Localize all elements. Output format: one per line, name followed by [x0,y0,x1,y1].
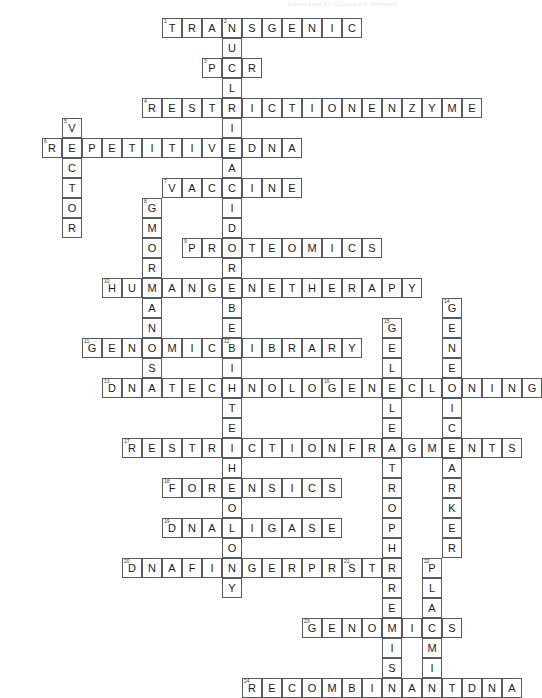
crossword-cell[interactable]: E [142,438,162,458]
crossword-cell[interactable]: 21S [342,558,362,578]
crossword-cell[interactable]: N [382,98,402,118]
crossword-cell[interactable]: N [462,438,482,458]
crossword-cell[interactable]: L [422,378,442,398]
crossword-cell[interactable]: A [382,438,402,458]
crossword-cell[interactable]: 14G [442,298,462,318]
crossword-cell[interactable]: 17R [122,438,142,458]
crossword-cell[interactable]: H [222,378,242,398]
crossword-cell[interactable]: R [142,258,162,278]
crossword-cell[interactable]: P [302,558,322,578]
crossword-cell[interactable]: P [382,518,402,538]
crossword-cell[interactable]: 23G [302,618,322,638]
crossword-cell[interactable]: I [382,638,402,658]
crossword-cell[interactable]: E [222,318,242,338]
crossword-cell[interactable]: D [222,218,242,238]
crossword-cell[interactable]: 4R [142,98,162,118]
crossword-cell[interactable]: E [382,418,402,438]
crossword-cell[interactable]: E [382,378,402,398]
crossword-cell[interactable]: 16G [322,378,342,398]
crossword-cell[interactable]: I [282,438,302,458]
crossword-cell[interactable]: 13D [102,378,122,398]
crossword-cell[interactable]: R [202,438,222,458]
crossword-cell[interactable]: E [442,318,462,338]
crossword-cell[interactable]: E [262,278,282,298]
crossword-cell[interactable]: L [222,78,242,98]
crossword-cell[interactable]: N [382,678,402,698]
crossword-cell[interactable]: V [202,138,222,158]
crossword-cell[interactable]: O [142,338,162,358]
crossword-cell[interactable]: T [282,278,302,298]
crossword-cell[interactable]: T [62,178,82,198]
crossword-cell[interactable]: E [462,98,482,118]
crossword-cell[interactable]: C [202,178,222,198]
crossword-cell[interactable]: R [182,18,202,38]
crossword-cell[interactable]: L [382,358,402,378]
crossword-cell[interactable]: R [382,578,402,598]
crossword-cell[interactable]: E [262,238,282,258]
crossword-cell[interactable]: N [142,558,162,578]
crossword-cell[interactable]: S [382,658,402,678]
crossword-cell[interactable]: C [422,618,442,638]
crossword-cell[interactable]: N [482,678,502,698]
crossword-cell[interactable]: I [222,438,242,458]
crossword-cell[interactable]: 20D [122,558,142,578]
crossword-cell[interactable]: C [342,238,362,258]
crossword-cell[interactable]: O [262,378,282,398]
crossword-cell[interactable]: E [322,618,342,638]
crossword-cell[interactable]: R [342,278,362,298]
crossword-cell[interactable]: A [422,598,442,618]
crossword-cell[interactable]: E [222,138,242,158]
crossword-cell[interactable]: O [442,378,462,398]
crossword-cell[interactable]: T [482,438,502,458]
crossword-cell[interactable]: M [442,98,462,118]
crossword-cell[interactable]: N [342,98,362,118]
crossword-cell[interactable]: S [322,478,342,498]
crossword-cell[interactable]: S [442,618,462,638]
crossword-cell[interactable]: E [322,518,342,538]
crossword-cell[interactable]: T [242,238,262,258]
crossword-cell[interactable]: L [422,578,442,598]
crossword-cell[interactable]: M [162,338,182,358]
crossword-cell[interactable]: N [242,478,262,498]
crossword-cell[interactable]: S [302,518,322,538]
crossword-cell[interactable]: R [362,438,382,458]
crossword-cell[interactable]: O [222,238,242,258]
crossword-cell[interactable]: 5V [62,118,82,138]
crossword-cell[interactable]: T [202,98,222,118]
crossword-cell[interactable]: S [502,438,522,458]
crossword-cell[interactable]: Z [402,98,422,118]
crossword-cell[interactable]: N [122,338,142,358]
crossword-cell[interactable]: M [322,678,342,698]
crossword-cell[interactable]: A [362,278,382,298]
crossword-cell[interactable]: R [382,478,402,498]
crossword-cell[interactable]: E [322,278,342,298]
crossword-cell[interactable]: E [222,418,242,438]
crossword-cell[interactable]: T [282,98,302,118]
crossword-cell[interactable]: N [262,178,282,198]
crossword-cell[interactable]: R [222,258,242,278]
crossword-cell[interactable]: R [202,238,222,258]
crossword-cell[interactable]: 3P [202,58,222,78]
crossword-cell[interactable]: E [222,278,242,298]
crossword-cell[interactable]: E [162,98,182,118]
crossword-cell[interactable]: 6R [42,138,62,158]
crossword-cell[interactable]: 22P [422,558,442,578]
crossword-cell[interactable]: O [302,378,322,398]
crossword-cell[interactable]: E [62,138,82,158]
crossword-cell[interactable]: N [422,678,442,698]
crossword-cell[interactable]: 19D [162,518,182,538]
crossword-cell[interactable]: G [522,378,542,398]
crossword-cell[interactable]: O [322,98,342,118]
crossword-cell[interactable]: I [182,338,202,358]
crossword-cell[interactable]: I [322,238,342,258]
crossword-cell[interactable]: A [282,518,302,538]
crossword-cell[interactable]: B [262,338,282,358]
crossword-cell[interactable]: 18F [162,478,182,498]
crossword-cell[interactable]: C [242,438,262,458]
crossword-cell[interactable]: I [322,18,342,38]
crossword-cell[interactable]: R [282,558,302,578]
crossword-cell[interactable]: Y [222,578,242,598]
crossword-cell[interactable]: R [382,558,402,578]
crossword-cell[interactable]: 9P [182,238,202,258]
crossword-cell[interactable]: Y [342,338,362,358]
